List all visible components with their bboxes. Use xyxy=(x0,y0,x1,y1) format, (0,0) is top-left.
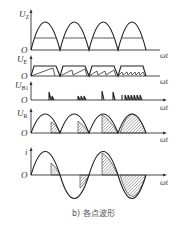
ur-hatch-2 xyxy=(78,121,89,133)
ur-axis-label: UR xyxy=(17,108,28,119)
i-hatch-1 xyxy=(51,163,60,175)
panel-ub1: UB1 O ωt xyxy=(15,80,169,112)
ue-y-arrow-icon xyxy=(30,55,33,59)
svg-text:ωt: ωt xyxy=(160,51,169,60)
i-axis-label: i xyxy=(25,147,28,157)
figure-caption: b) 各点波形 xyxy=(72,208,115,218)
svg-text:O: O xyxy=(21,128,28,138)
ue-axis-label: UE xyxy=(17,54,28,65)
svg-text:O: O xyxy=(21,71,28,81)
panel-ur: UR O ωt xyxy=(17,108,169,144)
svg-text:ωt: ωt xyxy=(160,135,169,144)
uz-y-arrow-icon xyxy=(30,9,33,13)
panel-i: i O ωt xyxy=(21,147,169,199)
ub1-pulses xyxy=(49,91,142,100)
ub1-axis-label: UB1 xyxy=(15,80,29,91)
ub1-y-arrow-icon xyxy=(30,81,33,85)
ur-y-arrow-icon xyxy=(30,108,33,112)
panel-uz: UZ O ωt xyxy=(19,9,169,60)
svg-text:O: O xyxy=(21,170,28,180)
ub1-x-arrow-icon xyxy=(163,99,167,102)
i-y-arrow-icon xyxy=(30,147,33,151)
svg-text:ωt: ωt xyxy=(160,103,169,112)
svg-text:ωt: ωt xyxy=(160,77,169,86)
uz-axis-label: UZ xyxy=(19,9,30,20)
uz-waveform xyxy=(31,22,146,50)
waveform-figure: UZ O ωt UE O ωt UB1 O ωt UR xyxy=(0,0,180,229)
svg-text:O: O xyxy=(21,95,28,105)
svg-text:ωt: ωt xyxy=(160,178,169,187)
panel-ue: UE O ωt xyxy=(17,54,169,86)
i-x-arrow-icon xyxy=(163,174,167,177)
